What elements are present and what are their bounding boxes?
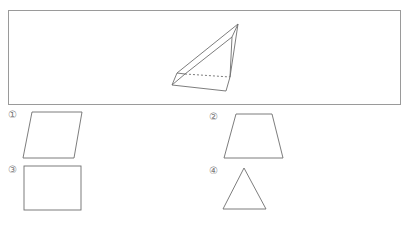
option-1-label[interactable]: ① [8, 110, 17, 120]
option-1-parallelogram[interactable] [23, 112, 82, 158]
option-2-trapezoid[interactable] [224, 114, 283, 158]
figure-canvas [0, 0, 408, 235]
option-4-label[interactable]: ④ [209, 166, 218, 176]
option-4-triangle[interactable] [223, 168, 266, 209]
option-3-label[interactable]: ③ [8, 165, 17, 175]
option-3-rectangle[interactable] [24, 166, 81, 210]
prism-figure [172, 24, 238, 91]
option-2-label[interactable]: ② [209, 112, 218, 122]
